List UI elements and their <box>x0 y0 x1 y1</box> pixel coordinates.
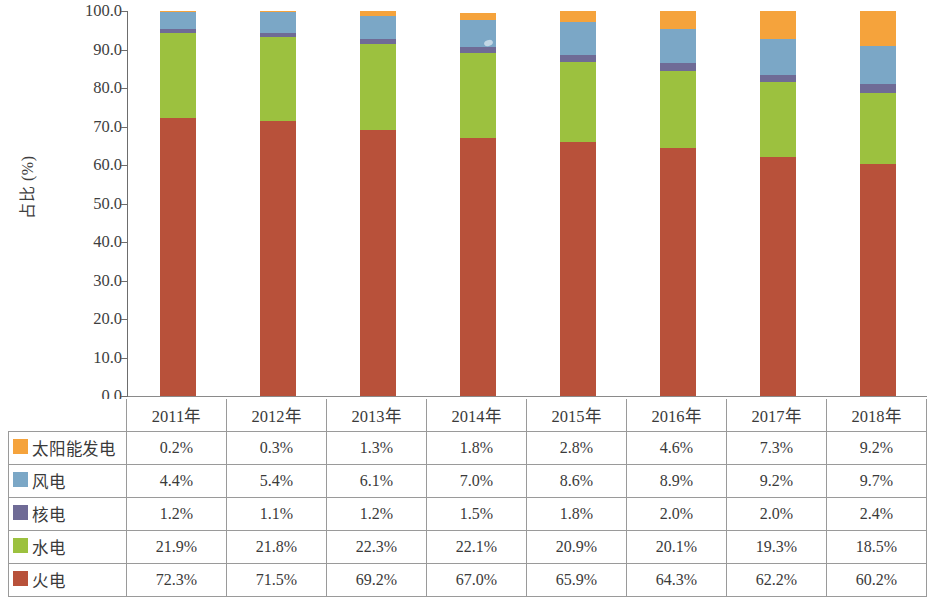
y-tick-label: 80.0 <box>56 80 122 96</box>
bar-segment <box>160 33 196 117</box>
table-column-header: 2013年 <box>327 399 427 432</box>
bar-segment <box>660 11 696 29</box>
table-cell: 0.2% <box>127 432 227 465</box>
table-cell: 1.2% <box>327 498 427 531</box>
y-tick-label: 30.0 <box>56 273 122 289</box>
table-cell: 8.6% <box>527 465 627 498</box>
bar-segment <box>760 75 796 83</box>
table-cell: 8.9% <box>627 465 727 498</box>
table-column-header: 2018年 <box>827 399 927 432</box>
y-tick-mark <box>121 319 128 320</box>
bar-segment <box>560 142 596 396</box>
table-cell: 21.9% <box>127 531 227 564</box>
bar-segment <box>260 37 296 121</box>
table-column-header: 2017年 <box>727 399 827 432</box>
table-cell: 1.5% <box>427 498 527 531</box>
bar-segment <box>660 29 696 63</box>
stacked-bar[interactable] <box>360 11 396 396</box>
bar-segment <box>660 148 696 396</box>
table-column-header: 2014年 <box>427 399 527 432</box>
bar-segment <box>460 13 496 20</box>
bar-segment <box>560 22 596 55</box>
table-cell: 21.8% <box>227 531 327 564</box>
bar-segment <box>560 62 596 142</box>
table-cell: 65.9% <box>527 564 627 597</box>
table-cell: 4.4% <box>127 465 227 498</box>
bar-segment <box>360 16 396 39</box>
table-column-header: 2012年 <box>227 399 327 432</box>
bar-segment <box>160 118 196 396</box>
bar-segment <box>260 121 296 396</box>
table-cell: 2.0% <box>727 498 827 531</box>
y-tick-label: 20.0 <box>56 311 122 327</box>
table-cell: 1.8% <box>527 498 627 531</box>
stacked-bar[interactable] <box>660 11 696 396</box>
table-cell: 1.2% <box>127 498 227 531</box>
y-tick-label: 60.0 <box>56 157 122 173</box>
bar-segment <box>460 53 496 138</box>
table-row: 风电4.4%5.4%6.1%7.0%8.6%8.9%9.2%9.7% <box>9 465 927 498</box>
table-cell: 62.2% <box>727 564 827 597</box>
chart-page: 占比 (%) 100.090.080.070.060.050.040.030.0… <box>0 0 930 599</box>
data-table: 2011年2012年2013年2014年2015年2016年2017年2018年… <box>8 399 927 597</box>
stacked-bar[interactable] <box>860 11 896 396</box>
table-cell: 72.3% <box>127 564 227 597</box>
bar-segment <box>460 138 496 396</box>
y-tick-mark <box>121 242 128 243</box>
legend-label-text: 风电 <box>32 469 66 493</box>
stacked-bar[interactable] <box>160 11 196 396</box>
table-cell: 4.6% <box>627 432 727 465</box>
table-row: 水电21.9%21.8%22.3%22.1%20.9%20.1%19.3%18.… <box>9 531 927 564</box>
stacked-bar[interactable] <box>760 11 796 396</box>
table-row: 火电72.3%71.5%69.2%67.0%65.9%64.3%62.2%60.… <box>9 564 927 597</box>
bar-segment <box>560 11 596 22</box>
table-corner-cell <box>9 399 127 432</box>
y-tick-label: 70.0 <box>56 119 122 135</box>
legend-swatch-icon <box>13 505 28 520</box>
bar-segment <box>160 12 196 29</box>
y-tick-mark <box>121 11 128 12</box>
stacked-bar[interactable] <box>260 11 296 396</box>
legend-row-label: 水电 <box>9 531 127 564</box>
stacked-bar[interactable] <box>560 11 596 396</box>
table-cell: 9.7% <box>827 465 927 498</box>
table-cell: 19.3% <box>727 531 827 564</box>
table-cell: 71.5% <box>227 564 327 597</box>
y-tick-mark <box>121 88 128 89</box>
table-cell: 20.9% <box>527 531 627 564</box>
legend-label-text: 核电 <box>32 502 66 526</box>
table-cell: 2.4% <box>827 498 927 531</box>
table-row: 太阳能发电0.2%0.3%1.3%1.8%2.8%4.6%7.3%9.2% <box>9 432 927 465</box>
bar-column <box>228 11 328 396</box>
bar-segment <box>760 11 796 39</box>
x-axis-baseline <box>127 396 927 397</box>
table-column-header: 2016年 <box>627 399 727 432</box>
legend-swatch-icon <box>13 439 28 454</box>
y-axis-title: 占比 (%) <box>14 117 38 257</box>
y-tick-mark <box>121 165 128 166</box>
table-column-header: 2015年 <box>527 399 627 432</box>
y-tick-label: 90.0 <box>56 42 122 58</box>
stacked-bar[interactable] <box>460 13 496 396</box>
bar-column <box>328 11 428 396</box>
table-cell: 2.0% <box>627 498 727 531</box>
legend-row-label: 核电 <box>9 498 127 531</box>
y-axis-tick-labels: 100.090.080.070.060.050.040.030.020.010.… <box>56 0 122 400</box>
table-cell: 60.2% <box>827 564 927 597</box>
table-cell: 9.2% <box>727 465 827 498</box>
plot-area <box>128 11 928 396</box>
bar-segment <box>860 46 896 83</box>
y-tick-mark <box>121 127 128 128</box>
y-tick-mark <box>121 204 128 205</box>
legend-row-label: 太阳能发电 <box>9 432 127 465</box>
legend-label-text: 太阳能发电 <box>32 436 116 460</box>
table-body: 太阳能发电0.2%0.3%1.3%1.8%2.8%4.6%7.3%9.2%风电4… <box>9 432 927 597</box>
bar-column <box>428 11 528 396</box>
bar-segment <box>660 71 696 148</box>
bar-segment <box>860 164 896 396</box>
bar-segment <box>260 12 296 33</box>
y-tick-mark <box>121 281 128 282</box>
legend-swatch-icon <box>13 538 28 553</box>
table-cell: 5.4% <box>227 465 327 498</box>
legend-row-label: 火电 <box>9 564 127 597</box>
